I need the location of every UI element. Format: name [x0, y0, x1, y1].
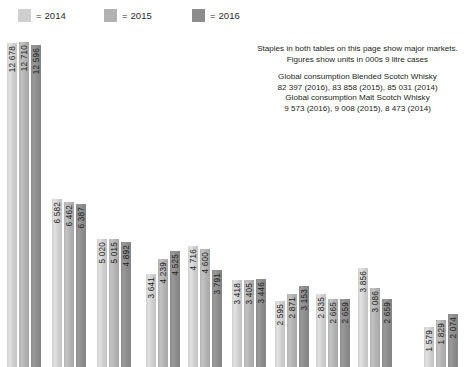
bar-2014-group-10[interactable]: 1 579	[424, 327, 434, 367]
bar-2015-group-3[interactable]: 5 015	[109, 239, 119, 367]
bar-2016-group-9[interactable]: 2 659	[382, 299, 392, 367]
bar-2014-group-1[interactable]: 12 678	[7, 43, 17, 367]
bar-chart-plot: 12 67812 71012 5966 5826 4626 3875 0205 …	[0, 28, 475, 367]
bar-fill	[170, 251, 180, 367]
legend-2015-swatch-icon	[104, 9, 117, 22]
bar-fill	[212, 270, 222, 367]
bar-fill	[19, 42, 29, 367]
bar-2016-group-4[interactable]: 4 525	[170, 251, 180, 367]
bar-2015-group-1[interactable]: 12 710	[19, 42, 29, 367]
bar-group: 3 4183 4053 446	[232, 28, 268, 367]
bar-fill	[370, 288, 380, 367]
bar-2015-group-2[interactable]: 6 462	[64, 202, 74, 367]
bar-2016-group-8[interactable]: 2 659	[340, 299, 350, 367]
bar-fill	[340, 299, 350, 367]
bar-fill	[244, 280, 254, 367]
bar-2015-group-5[interactable]: 4 600	[200, 249, 210, 367]
legend-2016[interactable]: = 2016	[192, 6, 240, 24]
bar-fill	[316, 294, 326, 367]
bar-group: 3 8563 0862 659	[358, 28, 394, 367]
legend-2014-label: = 2014	[36, 10, 66, 21]
bar-fill	[200, 249, 210, 367]
bar-2015-group-4[interactable]: 4 239	[158, 259, 168, 367]
legend-2015-label: = 2015	[122, 10, 152, 21]
bar-group: 3 6414 2394 525	[146, 28, 182, 367]
bar-fill	[382, 299, 392, 367]
bar-fill	[188, 246, 198, 367]
bar-fill	[158, 259, 168, 367]
bar-fill	[7, 43, 17, 367]
bar-fill	[299, 286, 309, 367]
bar-fill	[97, 239, 107, 367]
bar-2014-group-9[interactable]: 3 856	[358, 268, 368, 367]
bar-fill	[64, 202, 74, 367]
bar-2015-group-10[interactable]: 1 829	[436, 320, 446, 367]
legend-2015[interactable]: = 2015	[104, 6, 152, 24]
bar-group: 6 5826 4626 387	[52, 28, 88, 367]
bar-fill	[52, 199, 62, 367]
bar-2016-group-7[interactable]: 3 153	[299, 286, 309, 367]
bar-2016-group-6[interactable]: 3 446	[256, 279, 266, 367]
bar-2015-group-8[interactable]: 2 665	[328, 299, 338, 367]
bar-2014-group-6[interactable]: 3 418	[232, 280, 242, 367]
bar-2014-group-8[interactable]: 2 835	[316, 294, 326, 367]
bar-2016-group-5[interactable]: 3 791	[212, 270, 222, 367]
bar-2014-group-5[interactable]: 4 716	[188, 246, 198, 367]
bar-2016-group-3[interactable]: 4 892	[121, 242, 131, 367]
bar-fill	[328, 299, 338, 367]
bar-fill	[109, 239, 119, 367]
bar-fill	[275, 301, 285, 367]
bar-group: 4 7164 6003 791	[188, 28, 224, 367]
bar-fill	[76, 204, 86, 367]
bar-fill	[256, 279, 266, 367]
legend-2014[interactable]: = 2014	[18, 6, 66, 24]
bar-fill	[436, 320, 446, 367]
bar-2014-group-3[interactable]: 5 020	[97, 239, 107, 367]
bar-2015-group-7[interactable]: 2 871	[287, 294, 297, 367]
bar-fill	[232, 280, 242, 367]
bar-2015-group-6[interactable]: 3 405	[244, 280, 254, 367]
bar-group: 2 5952 8713 153	[275, 28, 311, 367]
bar-2014-group-7[interactable]: 2 595	[275, 301, 285, 367]
bar-2014-group-4[interactable]: 3 641	[146, 274, 156, 367]
bar-group: 2 8352 6652 659	[316, 28, 352, 367]
bar-2016-group-1[interactable]: 12 596	[31, 45, 41, 367]
legend-2014-swatch-icon	[18, 9, 31, 22]
bar-2016-group-2[interactable]: 6 387	[76, 204, 86, 367]
bar-fill	[358, 268, 368, 367]
bar-fill	[146, 274, 156, 367]
bar-group: 5 0205 0154 892	[97, 28, 133, 367]
bar-2016-group-10[interactable]: 2 074	[448, 314, 458, 367]
chart-legend: = 2014= 2015= 2016	[0, 6, 475, 28]
bar-group: 12 67812 71012 596	[7, 28, 43, 367]
bar-fill	[31, 45, 41, 367]
bar-fill	[287, 294, 297, 367]
bar-fill	[448, 314, 458, 367]
legend-2016-swatch-icon	[192, 9, 205, 22]
legend-2016-label: = 2016	[210, 10, 240, 21]
bar-2015-group-9[interactable]: 3 086	[370, 288, 380, 367]
bar-group: 1 5791 8292 074	[424, 28, 460, 367]
bar-fill	[121, 242, 131, 367]
bar-fill	[424, 327, 434, 367]
bar-2014-group-2[interactable]: 6 582	[52, 199, 62, 367]
